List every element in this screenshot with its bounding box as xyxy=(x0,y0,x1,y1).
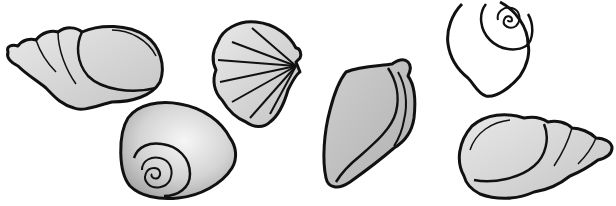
whelk-shell-right xyxy=(459,115,612,199)
conch-shell xyxy=(324,60,415,187)
scallop-shell xyxy=(213,22,301,127)
whelk-shell-left xyxy=(7,26,162,109)
seashells-illustration xyxy=(0,0,616,206)
moon-snail-shell-bottom xyxy=(121,103,236,199)
moon-snail-shell-top-right xyxy=(448,2,533,96)
